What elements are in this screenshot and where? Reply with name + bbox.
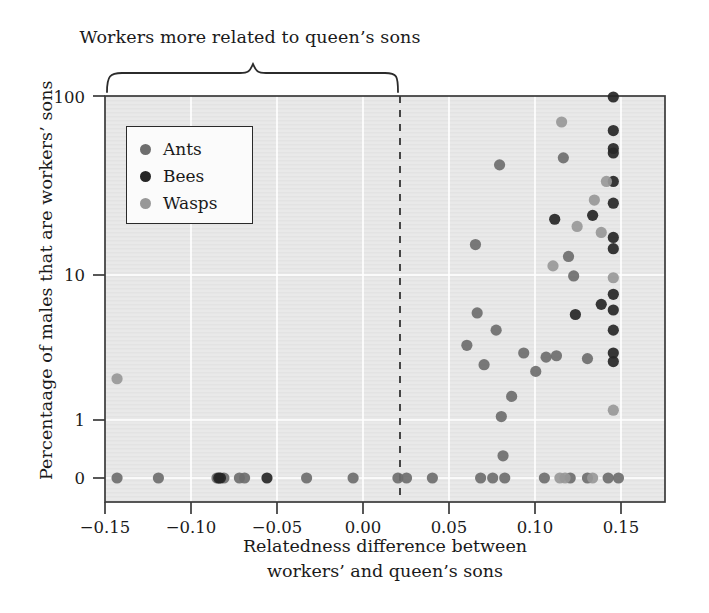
x-axis-title-line-1: Relatedness difference between: [105, 534, 665, 559]
data-point-bees: [608, 325, 619, 336]
data-point-ants: [518, 347, 529, 358]
legend: Ants Bees Wasps: [126, 126, 253, 224]
data-point-wasps: [556, 116, 567, 127]
data-point-wasps: [547, 260, 558, 271]
data-point-wasps: [587, 472, 598, 483]
y-axis-title: Percentaage of males that are workers’ s…: [36, 80, 56, 480]
legend-swatch-bees: [140, 171, 151, 182]
legend-item-wasps: Wasps: [140, 190, 217, 216]
legend-swatch-ants: [140, 144, 151, 155]
data-point-bees: [215, 472, 226, 483]
data-point-ants: [111, 472, 122, 483]
data-point-ants: [530, 366, 541, 377]
data-point-wasps: [608, 272, 619, 283]
data-point-wasps: [601, 176, 612, 187]
scatter-plot-figure: Workers more related to queen’s sons: [0, 0, 709, 613]
x-axis-title-line-2: workers’ and queen’s sons: [105, 559, 665, 584]
data-point-ants: [348, 472, 359, 483]
data-point-bees: [596, 299, 607, 310]
data-point-bees: [608, 125, 619, 136]
data-point-ants: [582, 353, 593, 364]
data-point-ants: [497, 450, 508, 461]
data-point-ants: [475, 472, 486, 483]
data-point-ants: [472, 307, 483, 318]
data-point-bees: [608, 232, 619, 243]
data-point-wasps: [589, 194, 600, 205]
data-point-bees: [570, 309, 581, 320]
x-axis-title: Relatedness difference between workers’ …: [105, 534, 665, 584]
data-point-bees: [608, 198, 619, 209]
data-point-bees: [608, 243, 619, 254]
data-point-ants: [491, 325, 502, 336]
data-point-ants: [499, 472, 510, 483]
data-point-ants: [613, 472, 624, 483]
data-point-bees: [608, 356, 619, 367]
legend-label-bees: Bees: [163, 168, 204, 185]
data-point-ants: [470, 239, 481, 250]
data-point-ants: [496, 411, 507, 422]
data-point-ants: [487, 472, 498, 483]
data-point-wasps: [596, 227, 607, 238]
data-point-ants: [401, 472, 412, 483]
data-point-wasps: [554, 472, 565, 483]
data-point-ants: [563, 251, 574, 262]
legend-label-wasps: Wasps: [163, 195, 217, 212]
data-point-ants: [558, 152, 569, 163]
data-point-ants: [153, 472, 164, 483]
data-point-bees: [608, 91, 619, 102]
data-point-ants: [506, 391, 517, 402]
data-point-bees: [608, 289, 619, 300]
data-point-ants: [539, 472, 550, 483]
legend-item-ants: Ants: [140, 136, 202, 162]
data-point-ants: [461, 340, 472, 351]
data-point-bees: [261, 472, 272, 483]
data-point-ants: [568, 270, 579, 281]
legend-label-ants: Ants: [163, 141, 202, 158]
data-point-bees: [587, 210, 598, 221]
data-point-wasps: [608, 405, 619, 416]
data-point-bees: [608, 147, 619, 158]
data-point-bees: [608, 304, 619, 315]
data-point-ants: [427, 472, 438, 483]
data-point-ants: [239, 472, 250, 483]
data-point-ants: [541, 352, 552, 363]
legend-swatch-wasps: [140, 198, 151, 209]
data-point-ants: [301, 472, 312, 483]
data-point-wasps: [572, 221, 583, 232]
legend-item-bees: Bees: [140, 163, 204, 189]
data-point-ants: [478, 359, 489, 370]
data-point-bees: [549, 214, 560, 225]
brace-marker: [107, 64, 398, 92]
data-point-ants: [551, 350, 562, 361]
data-point-ants: [603, 472, 614, 483]
data-point-ants: [494, 159, 505, 170]
data-point-wasps: [111, 373, 122, 384]
